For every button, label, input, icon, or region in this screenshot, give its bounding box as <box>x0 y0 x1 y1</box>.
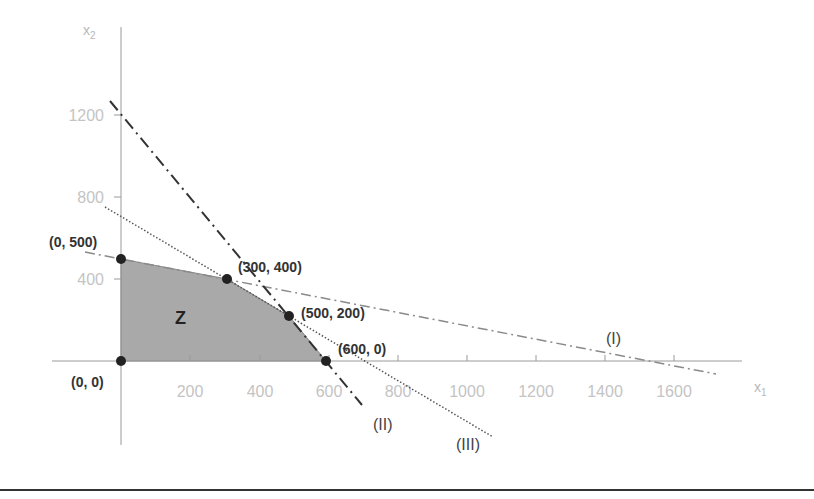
x-tick-200: 200 <box>177 383 204 400</box>
line-label-iii: (III) <box>456 436 480 453</box>
y-axis-title: x2 <box>83 22 96 41</box>
x-tick-1400: 1400 <box>587 383 623 400</box>
y-tick-800: 800 <box>77 189 104 206</box>
x-tick-400: 400 <box>247 383 274 400</box>
vertex-500-200 <box>284 311 294 321</box>
x-tick-1200: 1200 <box>518 383 554 400</box>
line-label-ii: (II) <box>373 416 393 433</box>
vertex-600-0 <box>321 356 331 366</box>
vertex-0-500 <box>116 254 126 264</box>
line-label-i: (I) <box>606 330 621 347</box>
vertex-0-0 <box>116 356 126 366</box>
lp-feasible-region-chart: 200 400 600 800 1000 1200 1400 1600 400 … <box>0 0 814 499</box>
label-600-0: (600, 0) <box>338 341 386 357</box>
x-tick-1000: 1000 <box>449 383 485 400</box>
x-tick-1600: 1600 <box>656 383 692 400</box>
label-0-500: (0, 500) <box>49 234 97 250</box>
label-300-400: (300, 400) <box>238 259 302 275</box>
y-tick-400: 400 <box>77 271 104 288</box>
x-tick-600: 600 <box>316 383 343 400</box>
y-tick-1200: 1200 <box>68 107 104 124</box>
region-label-z: Z <box>175 308 186 328</box>
label-0-0: (0, 0) <box>71 374 104 390</box>
x-axis-title: x1 <box>754 379 767 398</box>
vertex-300-400 <box>222 274 232 284</box>
bottom-rule <box>0 489 814 491</box>
label-500-200: (500, 200) <box>301 305 365 321</box>
